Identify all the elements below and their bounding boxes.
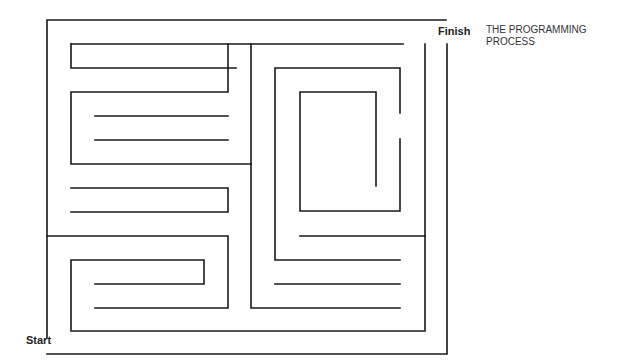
maze-wall xyxy=(71,188,228,212)
title-line-1: THE PROGRAMMING xyxy=(486,24,587,36)
finish-label: Finish xyxy=(438,25,470,37)
diagram-title: THE PROGRAMMING PROCESS xyxy=(486,24,587,48)
maze-wall xyxy=(71,44,236,68)
title-line-2: PROCESS xyxy=(486,36,587,48)
maze-wall xyxy=(300,92,400,211)
maze-walls xyxy=(47,20,447,354)
maze-wall xyxy=(71,44,400,308)
maze-wall xyxy=(47,236,228,308)
start-label: Start xyxy=(26,334,51,346)
maze-wall xyxy=(71,44,251,164)
maze-wall xyxy=(275,68,400,260)
maze-diagram xyxy=(0,0,619,363)
